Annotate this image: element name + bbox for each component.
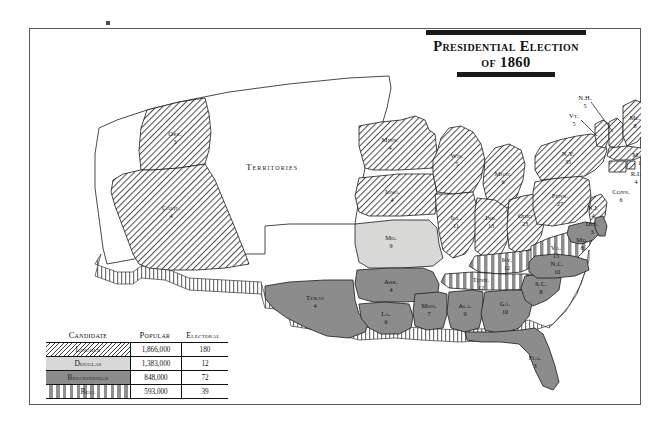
state-ri: [627, 161, 635, 169]
votes-ri: 4: [634, 178, 637, 185]
state-texas: [265, 280, 369, 338]
legend-electoral-breckinridge: 72: [182, 371, 228, 384]
votes-minn: 4: [388, 144, 391, 151]
votes-calif: 4: [169, 212, 172, 219]
legend-electoral-douglas: 12: [182, 357, 228, 370]
votes-penn: 27: [557, 200, 563, 207]
legend: Candidate Popular Electoral Lincoln 1,86…: [46, 330, 226, 399]
votes-ga: 10: [502, 308, 508, 315]
label-ga: Ga.: [500, 300, 511, 307]
label-minn: Minn.: [381, 136, 398, 143]
label-md: Md.: [576, 236, 588, 243]
legend-popular-breckinridge: 848,000: [131, 371, 182, 384]
votes-ore: 3: [173, 138, 176, 145]
label-va: Va.: [551, 244, 562, 251]
state-iowa: [355, 174, 437, 216]
votes-mich: 6: [501, 178, 504, 185]
legend-header-electoral: Electoral: [180, 331, 226, 340]
legend-label-douglas: Douglas: [74, 359, 101, 368]
state-nh: [609, 118, 623, 148]
label-mo: Mo.: [385, 234, 397, 241]
votes-ill: 11: [453, 222, 459, 229]
votes-miss: 7: [427, 310, 430, 317]
votes-tenn: 12: [478, 284, 484, 291]
votes-mass: 13: [638, 159, 641, 166]
legend-row-bell: Bell 593,000 39: [46, 385, 228, 398]
label-territories: Territories: [246, 162, 298, 172]
votes-me: 8: [633, 122, 636, 129]
legend-row-breckinridge: Breckinridge 848,000 72: [46, 371, 228, 385]
label-wis: Wis.: [451, 152, 464, 159]
votes-iowa: 4: [390, 196, 393, 203]
votes-ark: 4: [389, 286, 392, 293]
label-mich: Mich.: [495, 170, 512, 177]
label-la: La.: [381, 310, 391, 317]
legend-row-douglas: Douglas 1,383,000 12: [46, 357, 228, 371]
legend-electoral-bell: 39: [182, 385, 228, 398]
label-ark: Ark.: [384, 278, 398, 285]
label-nc: N.C.: [550, 260, 563, 267]
legend-label-lincoln: Lincoln: [76, 345, 101, 354]
legend-swatch-bell: Bell: [46, 385, 131, 398]
votes-la: 6: [384, 318, 387, 325]
votes-ky: 12: [504, 264, 510, 271]
label-sc: S.C.: [535, 280, 547, 287]
label-ore: Ore.: [168, 130, 182, 137]
votes-wis: 5: [455, 160, 458, 167]
label-del: Del.: [585, 220, 598, 227]
label-mass: Mass.: [632, 151, 641, 158]
label-calif: Calif.: [162, 204, 180, 211]
legend-header-row: Candidate Popular Electoral: [46, 330, 226, 342]
state-mo: [355, 220, 443, 268]
label-ri: R.I.: [631, 170, 641, 177]
label-vt: Vt.: [569, 112, 579, 119]
state-conn: [609, 161, 626, 172]
votes-conn: 6: [619, 196, 622, 203]
votes-nc: 10: [554, 268, 560, 275]
label-ala: Ala.: [458, 302, 472, 309]
votes-ny: 35: [565, 158, 571, 165]
scan-artifact-dot: [106, 21, 110, 25]
state-fla: [465, 328, 559, 390]
label-ny: N.Y.: [562, 150, 575, 157]
label-me: Me.: [629, 114, 640, 121]
map-page: Presidential Election of 1860: [0, 0, 669, 429]
votes-texas: 4: [313, 302, 316, 309]
legend-header-popular: Popular: [130, 330, 180, 340]
state-minn: [359, 116, 437, 170]
legend-swatch-breckinridge: Breckinridge: [46, 371, 131, 384]
legend-swatch-lincoln: Lincoln: [46, 343, 131, 356]
votes-mo: 9: [389, 242, 392, 249]
label-fla: Fla.: [529, 354, 542, 361]
label-texas: Texas: [306, 294, 324, 301]
votes-del: 3: [590, 228, 593, 235]
legend-label-breckinridge: Breckinridge: [67, 373, 108, 382]
label-iowa: Iowa: [385, 188, 399, 195]
votes-va: 15: [553, 252, 559, 259]
label-tenn: Tenn.: [473, 276, 490, 283]
votes-fla: 3: [533, 362, 536, 369]
label-miss: Miss.: [421, 302, 437, 309]
votes-vt: 5: [572, 120, 575, 127]
label-nh: N.H.: [578, 94, 592, 101]
state-wis: [433, 126, 485, 194]
legend-label-bell: Bell: [80, 387, 95, 396]
legend-body: Lincoln 1,866,000 180 Douglas 1,383,000 …: [46, 342, 226, 399]
label-penn: Penn.: [552, 192, 569, 199]
legend-popular-douglas: 1,383,000: [131, 357, 182, 370]
legend-header-candidate: Candidate: [46, 330, 130, 340]
votes-md: 8: [580, 244, 583, 251]
legend-popular-lincoln: 1,866,000: [131, 343, 182, 356]
votes-nj: 4: [591, 212, 594, 219]
legend-electoral-lincoln: 180: [182, 343, 228, 356]
label-ill: Ill.: [451, 214, 462, 221]
votes-ohio: 23: [522, 220, 528, 227]
label-nj: N.J.: [587, 204, 598, 211]
label-ohio: Ohio: [518, 212, 532, 219]
votes-nh: 5: [583, 102, 586, 109]
legend-swatch-douglas: Douglas: [46, 357, 131, 370]
votes-ind: 13: [488, 222, 494, 229]
label-conn: Conn.: [612, 188, 630, 195]
legend-row-lincoln: Lincoln 1,866,000 180: [46, 343, 228, 357]
label-ind: Ind.: [485, 214, 497, 221]
